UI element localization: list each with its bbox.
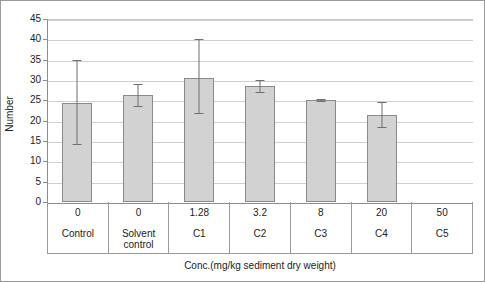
bar [245, 86, 275, 202]
bar-column [351, 19, 412, 202]
error-bar-cap-bottom [255, 92, 264, 93]
bar-column [290, 19, 351, 202]
category-concentration-label: 20 [376, 207, 387, 219]
error-bar [73, 60, 82, 146]
error-bar-cap-top [134, 84, 143, 85]
category-name-label-line2: control [124, 239, 154, 250]
category-label-cell: 20C4 [352, 202, 413, 253]
error-bar-stem [199, 39, 200, 113]
error-bar-cap-bottom [316, 101, 325, 102]
category-label-cell: 0Solventcontrol [109, 202, 170, 253]
category-label-cell: 3.2C2 [230, 202, 291, 253]
category-concentration-label: 1.28 [190, 207, 209, 219]
bar-chart-figure: Number 454035302520151050 0Control0Solve… [0, 0, 485, 282]
error-bar [316, 99, 325, 102]
category-name-label: C4 [375, 228, 388, 239]
category-name-label: C5 [436, 228, 449, 239]
bar-column [230, 19, 291, 202]
y-tick-label-30: 30 [15, 75, 41, 85]
bar-column [47, 19, 108, 202]
y-tick-label-45: 45 [15, 14, 41, 24]
error-bar [255, 80, 264, 93]
error-bar-cap-bottom [134, 106, 143, 107]
error-bar-stem [381, 102, 382, 128]
category-concentration-label: 0 [75, 207, 81, 219]
category-concentration-label: 50 [437, 207, 448, 219]
y-tick-label-20: 20 [15, 116, 41, 126]
y-tick-label-40: 40 [15, 34, 41, 44]
y-tick-label-35: 35 [15, 55, 41, 65]
bar-column [108, 19, 169, 202]
error-bar [134, 84, 143, 108]
error-bar-cap-bottom [73, 144, 82, 145]
error-bar-cap-top [377, 102, 386, 103]
error-bar-stem [77, 60, 78, 146]
category-name-label: Control [62, 228, 94, 239]
bar-column [412, 19, 473, 202]
x-axis-title: Conc.(mg/kg sediment dry weight) [47, 260, 473, 271]
y-tick-label-10: 10 [15, 156, 41, 166]
category-label-cell: 50C5 [412, 202, 473, 253]
error-bar-cap-top [73, 60, 82, 61]
category-label-cell: 1.28C1 [169, 202, 230, 253]
y-tick-label-25: 25 [15, 95, 41, 105]
error-bar-stem [138, 84, 139, 108]
category-name-label: Solvent [122, 228, 155, 239]
bar-series [47, 19, 473, 202]
y-tick-label-15: 15 [15, 136, 41, 146]
error-bar [377, 102, 386, 128]
y-tick-label-5: 5 [15, 177, 41, 187]
category-concentration-label: 0 [136, 207, 142, 219]
category-name-label: C1 [193, 228, 206, 239]
error-bar-cap-bottom [377, 127, 386, 128]
error-bar-cap-top [316, 99, 325, 100]
error-bar-cap-top [195, 39, 204, 40]
bar [367, 115, 397, 202]
error-bar [195, 39, 204, 113]
bar [306, 100, 336, 202]
category-concentration-label: 3.2 [253, 207, 267, 219]
y-tick-label-0: 0 [15, 197, 41, 207]
category-concentration-label: 8 [318, 207, 324, 219]
error-bar-cap-bottom [195, 113, 204, 114]
category-label-table: 0Control0Solventcontrol1.28C13.2C28C320C… [47, 202, 473, 254]
category-label-cell: 8C3 [291, 202, 352, 253]
bar [123, 95, 153, 202]
category-label-cell: 0Control [48, 202, 109, 253]
bar-column [169, 19, 230, 202]
category-name-label: C3 [314, 228, 327, 239]
category-name-label: C2 [254, 228, 267, 239]
error-bar-cap-top [255, 80, 264, 81]
